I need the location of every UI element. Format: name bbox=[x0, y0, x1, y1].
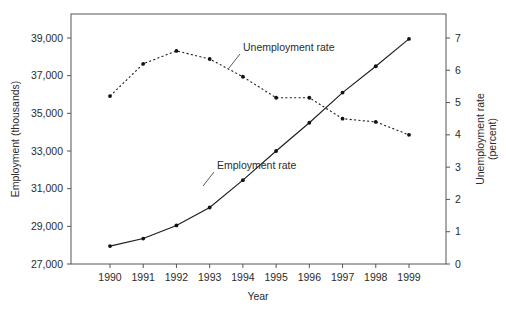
data-point-marker bbox=[307, 121, 311, 125]
right-tick-label: 4 bbox=[455, 128, 461, 140]
data-point-marker bbox=[274, 96, 278, 100]
x-tick-label: 1992 bbox=[165, 271, 189, 283]
y2-axis-title-line2: (percent) bbox=[486, 118, 498, 160]
data-point-marker bbox=[241, 75, 245, 79]
x-tick-label: 1999 bbox=[397, 271, 421, 283]
y-axis-title: Employment (thousands) bbox=[9, 81, 21, 198]
data-point-marker bbox=[274, 149, 278, 153]
x-tick-label: 1996 bbox=[298, 271, 322, 283]
left-tick-label: 29,000 bbox=[31, 220, 63, 232]
y2-axis-title-line1: Unemployment rate bbox=[474, 93, 486, 185]
data-point-marker bbox=[307, 96, 311, 100]
data-point-marker bbox=[341, 117, 345, 121]
x-tick-label: 1998 bbox=[364, 271, 388, 283]
left-tick-label: 27,000 bbox=[31, 258, 63, 270]
employment-unemployment-line-chart: 27,00029,00031,00033,00035,00037,00039,0… bbox=[0, 0, 506, 318]
data-point-marker bbox=[141, 62, 145, 66]
right-tick-label: 0 bbox=[455, 258, 461, 270]
right-tick-label: 5 bbox=[455, 96, 461, 108]
x-tick-label: 1997 bbox=[331, 271, 355, 283]
chart-container: 27,00029,00031,00033,00035,00037,00039,0… bbox=[0, 0, 506, 318]
left-tick-label: 33,000 bbox=[31, 145, 63, 157]
right-tick-label: 7 bbox=[455, 32, 461, 44]
data-point-marker bbox=[341, 91, 345, 95]
right-tick-label: 6 bbox=[455, 64, 461, 76]
left-tick-label: 31,000 bbox=[31, 182, 63, 194]
data-point-marker bbox=[108, 244, 112, 248]
data-point-marker bbox=[241, 178, 245, 182]
unemployment-series-annotation: Unemployment rate bbox=[243, 41, 335, 53]
data-point-marker bbox=[175, 223, 179, 227]
right-tick-label: 1 bbox=[455, 225, 461, 237]
left-tick-label: 35,000 bbox=[31, 107, 63, 119]
x-tick-label: 1994 bbox=[231, 271, 255, 283]
data-point-marker bbox=[374, 64, 378, 68]
right-tick-label: 3 bbox=[455, 161, 461, 173]
x-tick-label: 1991 bbox=[132, 271, 156, 283]
data-point-marker bbox=[407, 37, 411, 41]
right-tick-label: 2 bbox=[455, 193, 461, 205]
left-tick-label: 37,000 bbox=[31, 69, 63, 81]
x-tick-label: 1995 bbox=[264, 271, 288, 283]
data-point-marker bbox=[141, 237, 145, 241]
data-point-marker bbox=[175, 49, 179, 53]
x-tick-label: 1993 bbox=[198, 271, 222, 283]
data-point-marker bbox=[374, 120, 378, 124]
left-tick-label: 39,000 bbox=[31, 32, 63, 44]
data-point-marker bbox=[208, 206, 212, 210]
x-tick-label: 1990 bbox=[98, 271, 122, 283]
x-axis-title: Year bbox=[247, 290, 269, 302]
data-point-marker bbox=[108, 94, 112, 98]
data-point-marker bbox=[407, 133, 411, 137]
data-point-marker bbox=[208, 57, 212, 61]
employment-series-annotation: Employment rate bbox=[217, 159, 297, 171]
